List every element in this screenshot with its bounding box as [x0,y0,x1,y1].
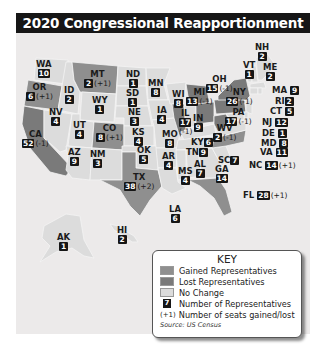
label-hi: HI2 [117,226,127,244]
key-title: KEY [153,253,301,265]
label-mt: MT2(+1) [84,70,111,88]
label-ar: AR4 [162,152,175,170]
source-note: Source: US Census [160,321,301,329]
label-ut: UT4 [73,121,86,139]
label-vt: VT1 [243,61,255,79]
label-sd: SD1 [126,89,139,107]
gained-swatch [160,266,174,275]
label-wy: WY1 [92,96,108,114]
state-fl [188,178,232,216]
map-key: KEY Gained Representatives Lost Represen… [152,250,302,338]
label-ky: KY6 [191,138,213,147]
label-ms: MS4 [178,167,193,185]
label-nd: ND1 [126,70,140,88]
no-change-swatch [160,288,174,297]
label-de: DE 1 [262,129,287,138]
label-va: VA 11 [260,148,288,157]
label-me: ME2 [263,63,277,81]
label-nj: NJ 12 [262,118,288,127]
key-row-change: (+1) Number of seats gained/lost [160,309,301,320]
key-row-no-change: No Change [160,287,301,298]
label-id: ID2 [64,86,74,104]
label-nm: NM3 [90,150,106,168]
key-row-gained: Gained Representatives [160,265,301,276]
label-in: IN9 [193,114,203,132]
label-ny: NY26(-1) [226,88,253,106]
label-ia: IA4 [157,106,167,124]
label-nv: NV4 [49,108,63,126]
label-sc: SC7 [218,156,239,165]
number-badge-icon: 7 [163,299,171,308]
label-ak: AK1 [57,233,70,251]
label-mn: MN8 [148,79,164,97]
label-nc: NC 14(+1) [249,161,296,170]
lost-swatch [160,277,174,286]
label-la: LA6 [169,205,181,223]
label-pa: PA17(-1) [225,108,252,126]
label-md: MD 8 [261,139,288,148]
label-ri: RI2 [275,97,294,106]
label-tn: TN9 [186,148,208,157]
label-il: IL17(-1) [178,109,192,136]
label-fl: FL 28(+1) [243,191,288,200]
label-ct: CT 5 [270,107,294,116]
label-tx: TX38(+2) [124,173,154,191]
label-ga: GA14 [215,165,229,183]
label-wv: WV2(-1) [213,124,236,142]
label-or: OR6(+1) [26,83,53,101]
label-co: CO8(+1) [96,124,123,142]
label-al: AL7 [194,160,206,178]
label-wa: WA10 [36,60,52,78]
label-ne: NE3 [128,108,141,126]
label-mo: MO8 [162,130,178,148]
key-row-number: 7 Number of Representatives [160,298,301,309]
label-ca: CA52(-1) [22,130,49,148]
label-nh: NH2 [255,43,269,61]
label-ok: OK5 [137,146,151,164]
label-wi: WI8 [172,90,185,108]
state-ri [258,88,262,94]
label-ks: KS4 [132,128,145,146]
key-row-lost: Lost Representatives [160,276,301,287]
label-ma: MA 9 [272,86,299,95]
label-az: AZ9 [68,148,81,166]
